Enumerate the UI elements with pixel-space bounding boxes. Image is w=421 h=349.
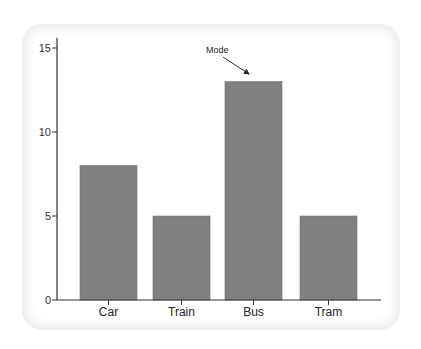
bar-chart: 051015 CarTrainBusTram Mode xyxy=(0,0,421,349)
y-tick-label: 5 xyxy=(45,210,51,222)
bar-bus xyxy=(225,82,282,300)
x-category-label: Tram xyxy=(315,305,343,319)
y-ticks-group: 051015 xyxy=(39,42,57,306)
x-category-label: Bus xyxy=(243,305,264,319)
bar-car xyxy=(80,166,137,300)
mode-label: Mode xyxy=(206,45,229,55)
x-ticks-group: CarTrainBusTram xyxy=(99,300,342,319)
mode-annotation: Mode xyxy=(206,45,249,74)
y-tick-label: 10 xyxy=(39,126,51,138)
y-tick-label: 0 xyxy=(45,294,51,306)
x-category-label: Car xyxy=(99,305,118,319)
mode-arrow-icon xyxy=(223,57,249,74)
bars-group xyxy=(80,82,357,300)
bar-train xyxy=(153,216,210,300)
x-category-label: Train xyxy=(168,305,195,319)
y-tick-label: 15 xyxy=(39,42,51,54)
bar-tram xyxy=(300,216,357,300)
